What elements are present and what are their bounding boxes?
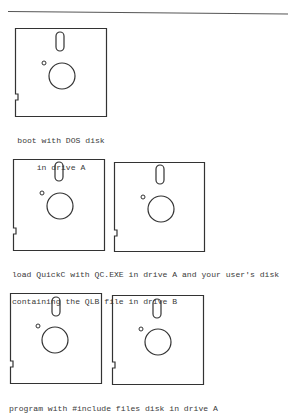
- floppy-disk-icon: [112, 295, 204, 385]
- floppy-disk-icon: [13, 159, 105, 251]
- floppy-disk-icon: [10, 293, 102, 384]
- caption-line: load QuickC with QC.EXE in drive A and y…: [12, 270, 279, 279]
- caption-include-files: program with #include files disk in driv…: [9, 386, 218, 417]
- caption-line: program with #include files disk in driv…: [9, 404, 218, 413]
- caption-line: boot with DOS disk: [8, 136, 114, 145]
- floppy-disk-icon: [15, 28, 107, 117]
- top-divider: [8, 11, 288, 14]
- floppy-disk-icon: [114, 162, 205, 252]
